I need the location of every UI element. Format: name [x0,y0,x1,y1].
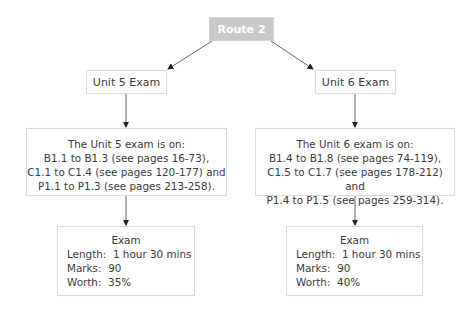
worth-label: Worth: [67,276,101,288]
exam-marks-row: Marks: 90 [287,261,422,275]
marks-label: Marks: [67,262,102,274]
route-label: Route 2 [217,23,265,36]
unit-6-label: Unit 6 Exam [322,76,389,89]
exam-length-row: Length: 1 hour 30 mins [58,247,194,261]
marks-value: 90 [337,262,350,274]
worth-value: 40% [337,276,360,288]
exam-marks-row: Marks: 90 [58,261,194,275]
unit-5-info-line: The Unit 5 exam is on: [27,137,226,151]
unit-6-info-line: The Unit 6 exam is on: [256,137,454,151]
unit-5-info-box: The Unit 5 exam is on: B1.1 to B1.3 (see… [26,128,227,196]
length-label: Length: [296,248,335,260]
unit-5-label: Unit 5 Exam [93,76,160,89]
unit-5-exam-box: Unit 5 Exam [86,70,167,94]
exam-length-row: Length: 1 hour 30 mins [287,247,422,261]
exam-title: Exam [287,233,422,247]
unit-6-exam-box: Unit 6 Exam [315,70,396,94]
unit-6-info-line: B1.4 to B1.8 (see pages 74-119), [256,151,454,165]
unit-5-info-line: P1.1 to P1.3 (see pages 213-258). [27,179,226,193]
unit-6-info-line: P1.4 to P1.5 (see pages 259-314). [256,193,454,207]
unit-5-info-line: C1.1 to C1.4 (see pages 120-177) and [27,165,226,179]
worth-value: 35% [108,276,131,288]
exam-title: Exam [58,233,194,247]
exam-worth-row: Worth: 35% [58,275,194,289]
unit-6-info-line: C1.5 to C1.7 (see pages 178-212) and [256,165,454,193]
marks-value: 90 [108,262,121,274]
unit-5-info-line: B1.1 to B1.3 (see pages 16-73), [27,151,226,165]
length-value: 1 hour 30 mins [342,248,421,260]
unit-5-exam-details: Exam Length: 1 hour 30 mins Marks: 90 Wo… [57,226,195,296]
length-value: 1 hour 30 mins [113,248,192,260]
unit-6-info-box: The Unit 6 exam is on: B1.4 to B1.8 (see… [255,128,455,196]
unit-6-exam-details: Exam Length: 1 hour 30 mins Marks: 90 Wo… [286,226,423,296]
length-label: Length: [67,248,106,260]
exam-worth-row: Worth: 40% [287,275,422,289]
route-2-header: Route 2 [209,17,274,41]
worth-label: Worth: [296,276,330,288]
marks-label: Marks: [296,262,331,274]
